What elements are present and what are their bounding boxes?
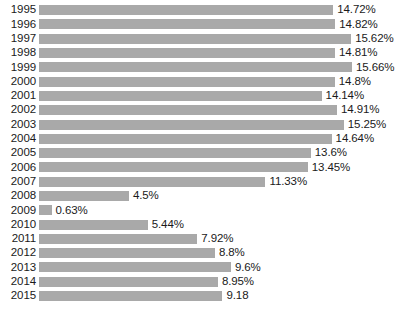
category-label: 1999: [0, 62, 36, 74]
bar: [39, 148, 311, 158]
category-label: 2009: [0, 205, 36, 217]
bar: [39, 177, 265, 187]
bar-track: 4.5%: [36, 189, 416, 203]
bar: [39, 191, 129, 201]
value-label: 13.45%: [312, 162, 350, 174]
value-label: 8.8%: [219, 247, 245, 259]
bar-row: 200114.14%: [0, 89, 416, 103]
bar-row: 200014.8%: [0, 74, 416, 88]
bar-row: 199814.81%: [0, 46, 416, 60]
category-label: 2012: [0, 247, 36, 259]
bar-row: 20117.92%: [0, 232, 416, 246]
category-label: 2014: [0, 276, 36, 288]
bar-row: 20084.5%: [0, 189, 416, 203]
value-label: 14.64%: [336, 133, 374, 145]
value-label: 15.66%: [356, 62, 394, 74]
value-label: 14.14%: [326, 90, 364, 102]
value-label: 14.8%: [339, 76, 371, 88]
bar: [39, 91, 322, 101]
value-label: 15.25%: [348, 119, 386, 131]
bar-track: 0.63%: [36, 203, 416, 217]
bar: [39, 291, 222, 301]
bar-row: 200315.25%: [0, 117, 416, 131]
bar: [39, 34, 351, 44]
bar-track: 13.45%: [36, 160, 416, 174]
bar-row: 200613.45%: [0, 160, 416, 174]
bar: [39, 220, 148, 230]
category-label: 2008: [0, 190, 36, 202]
bar: [39, 277, 218, 287]
value-label: 14.72%: [337, 4, 375, 16]
bar: [39, 162, 308, 172]
bar-track: 14.14%: [36, 89, 416, 103]
bar-track: 14.91%: [36, 103, 416, 117]
category-label: 1997: [0, 33, 36, 45]
value-label: 9.18: [226, 290, 248, 302]
bar-track: 9.6%: [36, 260, 416, 274]
value-label: 7.92%: [201, 233, 233, 245]
bar-track: 15.66%: [36, 60, 416, 74]
bar-track: 8.8%: [36, 246, 416, 260]
category-label: 2003: [0, 119, 36, 131]
bar-row: 20139.6%: [0, 260, 416, 274]
bar: [39, 19, 335, 29]
category-label: 2001: [0, 90, 36, 102]
bar: [39, 205, 52, 215]
bar: [39, 120, 344, 130]
bar-row: 199715.62%: [0, 32, 416, 46]
bar-track: 14.81%: [36, 46, 416, 60]
category-label: 2002: [0, 104, 36, 116]
bar-track: 7.92%: [36, 232, 416, 246]
bar-row: 20159.18: [0, 289, 416, 303]
bar-row: 20105.44%: [0, 217, 416, 231]
category-label: 2005: [0, 147, 36, 159]
value-label: 8.95%: [222, 276, 254, 288]
category-label: 2011: [0, 233, 36, 245]
bar: [39, 5, 333, 15]
bar-row: 200214.91%: [0, 103, 416, 117]
bar-track: 8.95%: [36, 275, 416, 289]
bar: [39, 234, 197, 244]
bar: [39, 262, 231, 272]
category-label: 1995: [0, 4, 36, 16]
bar-row: 199614.82%: [0, 17, 416, 31]
value-label: 13.6%: [315, 147, 347, 159]
category-label: 2015: [0, 290, 36, 302]
bar-track: 14.82%: [36, 17, 416, 31]
bar: [39, 77, 335, 87]
value-label: 4.5%: [133, 190, 159, 202]
bar-track: 14.8%: [36, 74, 416, 88]
value-label: 9.6%: [235, 262, 261, 274]
bar: [39, 134, 332, 144]
bar-track: 9.18: [36, 289, 416, 303]
value-label: 5.44%: [152, 219, 184, 231]
bar: [39, 105, 337, 115]
bar-track: 13.6%: [36, 146, 416, 160]
bar-row: 200513.6%: [0, 146, 416, 160]
bar-track: 14.64%: [36, 132, 416, 146]
bar-track: 11.33%: [36, 175, 416, 189]
category-label: 1996: [0, 19, 36, 31]
value-label: 14.82%: [339, 19, 377, 31]
category-label: 2004: [0, 133, 36, 145]
bar: [39, 62, 352, 72]
value-label: 15.62%: [355, 33, 393, 45]
bar-chart: 199514.72%199614.82%199715.62%199814.81%…: [0, 0, 416, 315]
bar-track: 5.44%: [36, 217, 416, 231]
category-label: 1998: [0, 47, 36, 59]
bar: [39, 248, 215, 258]
category-label: 2007: [0, 176, 36, 188]
bar-row: 200414.64%: [0, 132, 416, 146]
bar-row: 199514.72%: [0, 3, 416, 17]
bar-row: 20128.8%: [0, 246, 416, 260]
value-label: 11.33%: [269, 176, 307, 188]
bar-track: 14.72%: [36, 3, 416, 17]
category-label: 2010: [0, 219, 36, 231]
bar: [39, 48, 335, 58]
category-label: 2013: [0, 262, 36, 274]
bar-row: 20090.63%: [0, 203, 416, 217]
chart-plot-area: 199514.72%199614.82%199715.62%199814.81%…: [0, 3, 416, 303]
value-label: 14.81%: [339, 47, 377, 59]
bar-track: 15.25%: [36, 117, 416, 131]
bar-row: 200711.33%: [0, 175, 416, 189]
